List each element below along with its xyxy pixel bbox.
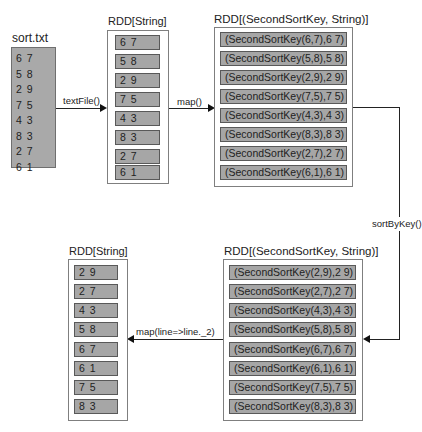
rdd-item: 7 5 — [74, 380, 118, 395]
rdd-item: 2 7 — [74, 284, 118, 299]
rdd-string-1-title: RDD[String] — [108, 15, 167, 28]
edge-line-textfile — [56, 108, 101, 109]
edge-label-sortbykey: sortByKey() — [372, 218, 422, 229]
rdd-item: (SecondSortKey(7,5),7 5) — [220, 89, 347, 104]
rdd-item: (SecondSortKey(2,7),2 7) — [220, 146, 347, 161]
rdd-item: (SecondSortKey(4,3),4 3) — [220, 108, 347, 123]
rdd-item: (SecondSortKey(6,1),6 1) — [229, 361, 356, 376]
rdd-item: 6 1 — [74, 361, 118, 376]
rdd-item: (SecondSortKey(6,7),6 7) — [220, 32, 347, 47]
rdd-item: 5 8 — [74, 322, 118, 337]
rdd-item: (SecondSortKey(5,8),5 8) — [229, 322, 356, 337]
edge-line-sortbykey-v1 — [399, 107, 400, 217]
file-line: 7 5 — [16, 98, 55, 114]
file-line: 2 9 — [16, 82, 55, 98]
edge-line-sortbykey-v2 — [399, 231, 400, 340]
rdd-item: 5 8 — [115, 54, 160, 69]
rdd-item: (SecondSortKey(7,5),7 5) — [229, 380, 356, 395]
edge-line-map — [169, 108, 208, 109]
rdd-item: (SecondSortKey(8,3),8 3) — [229, 399, 356, 414]
arrowhead-right-icon — [100, 104, 107, 112]
rdd-item: 6 1 — [115, 165, 160, 180]
rdd-item: (SecondSortKey(8,3),8 3) — [220, 127, 347, 142]
edge-label-map-second: map(line=>line._2) — [136, 326, 215, 337]
rdd-item: 6 7 — [74, 342, 118, 357]
rdd-item: (SecondSortKey(6,7),6 7) — [229, 342, 356, 357]
rdd-item: (SecondSortKey(4,3),4 3) — [229, 303, 356, 318]
rdd-item: 2 9 — [74, 265, 118, 280]
edge-line-map-second — [134, 339, 223, 340]
source-file-title: sort.txt — [12, 32, 48, 45]
file-line: 5 8 — [16, 67, 55, 83]
file-line: 8 3 — [16, 129, 55, 145]
rdd-item: 4 3 — [115, 111, 160, 126]
rdd-item: (SecondSortKey(2,9),2 9) — [229, 265, 356, 280]
edge-line-sortbykey-h1 — [353, 107, 400, 108]
arrowhead-left-icon — [363, 335, 370, 343]
file-line: 2 7 — [16, 144, 55, 160]
source-file-box: 6 7 5 8 2 9 7 5 4 3 8 3 2 7 6 1 — [11, 47, 56, 168]
edge-line-sortbykey-h2 — [370, 339, 400, 340]
rdd-string-result-title: RDD[String] — [69, 245, 128, 258]
arrowhead-left-icon — [127, 335, 134, 343]
rdd-item: (SecondSortKey(2,7),2 7) — [229, 284, 356, 299]
rdd-item: 6 7 — [115, 35, 160, 50]
rdd-item: (SecondSortKey(5,8),5 8) — [220, 51, 347, 66]
rdd-item: 8 3 — [74, 399, 118, 414]
file-line: 4 3 — [16, 113, 55, 129]
rdd-pair-1-title: RDD[(SecondSortKey, String)] — [214, 13, 368, 26]
rdd-pair-sorted-title: RDD[(SecondSortKey, String)] — [224, 245, 378, 258]
file-line: 6 7 — [16, 51, 55, 67]
rdd-item: 2 9 — [115, 73, 160, 88]
rdd-item: 2 7 — [115, 149, 160, 164]
rdd-item: 8 3 — [115, 130, 160, 145]
rdd-item: (SecondSortKey(2,9),2 9) — [220, 70, 347, 85]
rdd-item: 7 5 — [115, 92, 160, 107]
edge-label-map: map() — [177, 96, 202, 107]
file-line: 6 1 — [16, 160, 55, 176]
rdd-item: 4 3 — [74, 303, 118, 318]
edge-label-textfile: textFile() — [63, 95, 100, 106]
rdd-item: (SecondSortKey(6,1),6 1) — [220, 165, 347, 180]
